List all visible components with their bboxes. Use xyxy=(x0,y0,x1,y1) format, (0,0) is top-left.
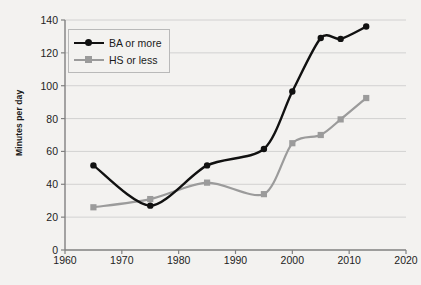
chart-container: Minutes per day 140 120 100 80 60 40 20 … xyxy=(0,0,421,285)
plot-area xyxy=(0,0,421,285)
legend-marker-square-icon xyxy=(74,54,104,66)
series-hs-or-less xyxy=(90,95,369,210)
legend-item-ba-or-more: BA or more xyxy=(74,34,162,51)
legend-label: HS or less xyxy=(109,54,157,66)
legend-marker-circle-icon xyxy=(74,37,104,49)
legend-item-hs-or-less: HS or less xyxy=(74,51,162,68)
chart-legend: BA or more HS or less xyxy=(68,29,170,73)
legend-label: BA or more xyxy=(109,37,162,49)
